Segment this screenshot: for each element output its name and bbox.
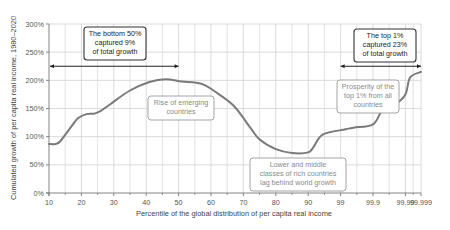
- annotation-text: Rise of emerging: [154, 98, 208, 107]
- annotation-text: Lower and middle: [270, 160, 327, 169]
- x-tick-label: 99.9: [366, 198, 380, 207]
- y-tick-label: 250%: [26, 48, 45, 57]
- x-tick-label: 80: [272, 198, 280, 207]
- annotation-top1: The top 1%captured 23%of total growth: [354, 29, 416, 62]
- y-tick-label: 0%: [34, 189, 45, 198]
- top1-range-arrowhead-right: [417, 64, 421, 68]
- annotation-text: countries: [353, 100, 383, 109]
- x-tick-label: 99.999: [410, 198, 432, 207]
- x-tick-label: 50: [175, 198, 183, 207]
- x-tick-label: 90: [304, 198, 312, 207]
- y-axis-title: Cumulated growth of per capita real inco…: [9, 16, 18, 200]
- y-tick-label: 100%: [26, 132, 45, 141]
- bottom50-range-arrowhead-right: [175, 64, 179, 68]
- annotation-text: The bottom 50%: [89, 29, 142, 38]
- annotation-text: of total growth: [362, 49, 407, 58]
- top1-range-arrowhead-left: [341, 64, 345, 68]
- y-tick-label: 300%: [26, 20, 45, 29]
- y-tick-label: 50%: [30, 160, 45, 169]
- x-tick-label: 70: [239, 198, 247, 207]
- range-arrows: [50, 64, 421, 68]
- annotations: The bottom 50%captured 9%of total growth…: [84, 27, 416, 191]
- annotation-prosperity: Prosperity of thetop 1% from allcountrie…: [337, 80, 399, 113]
- x-tick-labels: 1020304050607080909999.999.9999.999: [45, 198, 432, 207]
- x-axis-title: Percentile of the global distribution of…: [136, 209, 332, 218]
- x-tick-label: 60: [207, 198, 215, 207]
- annotation-text: The top 1%: [367, 31, 404, 40]
- annotation-text: classes of rich countries: [260, 169, 337, 178]
- annotation-lower-middle: Lower and middleclasses of rich countrie…: [250, 158, 346, 191]
- annotation-text: Prosperity of the: [342, 82, 394, 91]
- annotation-text: of total growth: [92, 47, 137, 56]
- y-tick-label: 200%: [26, 76, 45, 85]
- bottom50-range-arrowhead-left: [50, 64, 54, 68]
- annotation-text: countries: [166, 107, 196, 116]
- x-tick-label: 30: [110, 198, 118, 207]
- x-tick-label: 99: [337, 198, 345, 207]
- x-tick-label: 40: [142, 198, 150, 207]
- elephant-curve-chart: 0%50%100%150%200%250%300% 10203040506070…: [0, 0, 450, 230]
- y-tick-label: 150%: [26, 104, 45, 113]
- y-tick-labels: 0%50%100%150%200%250%300%: [26, 20, 45, 198]
- annotation-emerging: Rise of emergingcountries: [148, 96, 214, 120]
- annotation-text: captured 9%: [95, 38, 136, 47]
- annotation-text: top 1% from all: [344, 91, 392, 100]
- x-tick-label: 20: [77, 198, 85, 207]
- annotation-bottom50: The bottom 50%captured 9%of total growth: [84, 27, 146, 60]
- annotation-text: captured 23%: [363, 40, 408, 49]
- x-tick-label: 10: [45, 198, 53, 207]
- annotation-text: lag behind world growth: [260, 178, 336, 187]
